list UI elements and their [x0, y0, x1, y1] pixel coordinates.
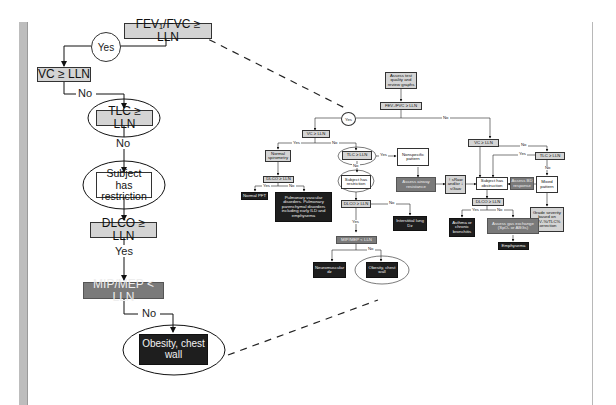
yes-small-circle: Yes	[341, 112, 356, 126]
yes-label-2: Yes	[113, 246, 135, 257]
assess-bd-response-render: Assess BD response	[510, 177, 534, 190]
yes-dlco-obstruction-label: Yes	[471, 208, 480, 212]
yes-dlco-restriction-label: Yes	[351, 220, 360, 224]
dlco-restriction-box: DLCO ≥ LLN	[341, 200, 371, 208]
normal-spirometry-box: Normal spirometry	[265, 150, 291, 162]
dlco-normal-box: DLCO ≥ LLN	[263, 176, 294, 183]
no-label-1: No	[76, 88, 94, 99]
fev1-fvc-box: FEV₁/FVC ≥ LLN	[124, 23, 212, 39]
normal-pft-box: Normal PFT	[241, 192, 268, 200]
dlco-obstruction-box: DLCO ≥ LLN	[472, 198, 504, 206]
tlc-right-small-box: TLC ≥ LLN	[535, 152, 565, 160]
asthma-box: Asthma or chronic bronchitis	[449, 218, 475, 237]
yes-tlc-right-label: Yes	[518, 152, 527, 156]
no-vc-right-label: No	[520, 143, 528, 147]
restriction-small-box: Subject has restriction	[341, 175, 371, 189]
obesity-small-box: Obesity, chest wall	[366, 262, 398, 278]
vc-box: VC ≥ LLN	[37, 67, 91, 82]
yes-vc-left-label: Yes	[292, 141, 301, 145]
tlc-box: TLC ≥ LLN	[96, 110, 153, 126]
nonspecific-box: Nonspecific pattern	[397, 148, 429, 166]
gas-exchange-box: Assess gas exchange (SpO₂ or ABGs)	[487, 218, 539, 234]
pulmonary-vascular-box: Pulmonary vascular disorders. Pulmonary …	[275, 192, 332, 222]
no-dlco-restriction-label: No	[388, 201, 396, 205]
mip-mep-small-box: MIP/MEP < LLN	[336, 236, 377, 244]
yes-circle: Yes	[91, 32, 121, 62]
sraw-sgaw-box: ↑ sRaw and/or ↓ sGaw	[445, 175, 466, 194]
restriction-box: Subject has restriction	[96, 172, 152, 198]
obstruction-box: Subject has obstruction	[476, 177, 508, 190]
yes-dlco-normal-label: Yes	[262, 184, 271, 188]
dlco-box: DLCO ≥ LLN	[90, 222, 157, 238]
no-tlc-right-label: No	[544, 166, 552, 170]
airway-resistance-box: Assess airway resistance	[396, 177, 436, 192]
no-label-3: No	[140, 308, 158, 319]
vc-right-small-box: VC ≥ LLN	[468, 139, 499, 147]
yes-circle-label: Yes	[98, 42, 114, 53]
emphysema-box: Emphysema	[498, 242, 529, 250]
no-top-label: No	[442, 116, 450, 120]
interstitial-lung-box: Interstitial lung Dz	[393, 216, 427, 231]
mip-mep-box: MIP/MEP < LLN	[83, 282, 164, 299]
no-label-2: No	[114, 138, 132, 149]
fev1-fvc-small-box: FEV₁/FVC ≥ LLN	[380, 102, 422, 110]
yes-tlc-mid-label: Yes	[379, 153, 388, 157]
no-dlco-obstruction-label: No	[496, 208, 504, 212]
assess-test-box: Assess test quality and review graphs	[385, 72, 417, 89]
no-vc-left-label: No	[331, 141, 339, 145]
mixed-pattern-box: Mixed pattern	[536, 176, 558, 193]
obesity-box: Obesity, chest wall	[139, 334, 208, 365]
yes-small-circle-label: Yes	[345, 117, 352, 122]
no-mip-label: No	[367, 247, 375, 251]
no-dlco-normal-label: No	[288, 184, 296, 188]
neuromuscular-box: Neuromuscular dz	[313, 262, 346, 278]
vc-left-small-box: VC ≥ LLN	[302, 130, 330, 138]
no-tlc-mid-label: No	[352, 164, 360, 168]
tlc-mid-small-box: TLC ≥ LLN	[342, 151, 372, 160]
